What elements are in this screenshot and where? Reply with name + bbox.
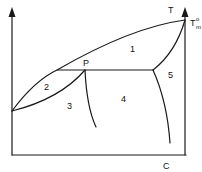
boundary-curve-3-4	[85, 70, 96, 127]
region-4-label: 4	[121, 94, 126, 104]
region-1-label: 1	[130, 44, 135, 54]
right-axis-arrow-icon	[182, 7, 189, 17]
phase-diagram: T T o m C P 1 2 3 4 5	[0, 0, 202, 172]
boundary-curve-1-5	[153, 20, 185, 70]
melting-point-subscript: m	[196, 24, 201, 30]
melting-point-superscript: o	[196, 16, 200, 22]
boundary-curve-4-5	[153, 70, 170, 143]
left-axis-arrow-icon	[9, 7, 16, 17]
x-axis-label: C	[163, 161, 170, 171]
region-3-label: 3	[67, 101, 72, 111]
region-5-label: 5	[168, 70, 173, 80]
point-p-label: P	[83, 58, 89, 68]
region-2-label: 2	[44, 82, 49, 92]
y-axis-label: T	[168, 5, 174, 15]
